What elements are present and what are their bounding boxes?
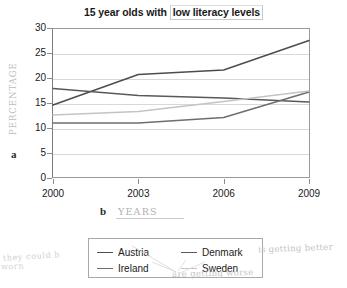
handwritten-underline-years bbox=[116, 218, 184, 219]
x-axis-tick-label: 2000 bbox=[42, 189, 64, 199]
y-axis-tick-label: 10 bbox=[24, 123, 46, 133]
y-axis-tick bbox=[47, 103, 52, 104]
handwritten-note-worse: are getting worse bbox=[172, 267, 254, 279]
chart-title-plain: 15 year olds with bbox=[84, 6, 167, 18]
legend-item-denmark[interactable]: Denmark bbox=[181, 248, 243, 258]
y-axis-tick-label: 30 bbox=[24, 23, 46, 33]
y-axis-tick bbox=[47, 28, 52, 29]
x-axis-tick bbox=[138, 179, 139, 184]
chart-page: 15 year olds with low literacy levels 05… bbox=[0, 0, 347, 288]
marker-b: b bbox=[100, 205, 106, 217]
y-axis-tick bbox=[47, 53, 52, 54]
handwritten-x-axis-label: YEARS bbox=[118, 206, 158, 217]
y-axis-tick bbox=[47, 78, 52, 79]
x-axis-tick bbox=[224, 179, 225, 184]
y-axis-tick bbox=[47, 153, 52, 154]
x-axis-tick-label: 2009 bbox=[298, 189, 320, 199]
y-axis-tick-label: 0 bbox=[24, 173, 46, 183]
legend-item-austria[interactable]: Austria bbox=[97, 248, 149, 258]
legend-swatch-austria bbox=[97, 252, 113, 253]
y-axis-tick-label: 25 bbox=[24, 48, 46, 58]
handwritten-note-bottom-left-2: worn bbox=[1, 261, 24, 271]
marker-a: a bbox=[11, 148, 17, 160]
legend-label: Austria bbox=[118, 247, 149, 258]
legend-label: Ireland bbox=[118, 263, 149, 274]
x-axis-tick bbox=[309, 179, 310, 184]
y-axis-tick bbox=[47, 128, 52, 129]
x-axis-tick bbox=[53, 179, 54, 184]
x-axis-tick-label: 2006 bbox=[213, 189, 235, 199]
x-axis-tick-label: 2003 bbox=[127, 189, 149, 199]
legend-swatch-denmark bbox=[181, 252, 197, 253]
chart-title: 15 year olds with low literacy levels bbox=[0, 6, 347, 18]
chart-title-highlight: low literacy levels bbox=[170, 5, 263, 20]
series-lines bbox=[52, 28, 310, 178]
legend-swatch-ireland bbox=[97, 268, 113, 269]
y-axis-tick-label: 20 bbox=[24, 73, 46, 83]
legend-label: Denmark bbox=[202, 247, 243, 258]
legend-item-ireland[interactable]: Ireland bbox=[97, 264, 149, 274]
x-axis-labels: 2000200320062009 bbox=[52, 183, 310, 199]
y-axis-tick-label: 5 bbox=[24, 148, 46, 158]
handwritten-note-better: is getting better bbox=[258, 242, 333, 255]
y-axis-tick bbox=[47, 178, 52, 179]
y-axis-tick-label: 15 bbox=[24, 98, 46, 108]
handwritten-y-axis-label: PERCENTAGE bbox=[8, 65, 18, 135]
